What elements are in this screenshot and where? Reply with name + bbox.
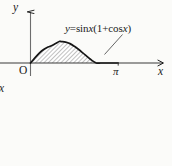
equation-open-paren: (1+ bbox=[93, 22, 108, 34]
y-axis-label: y bbox=[13, 2, 18, 14]
x-tick-label-pi: π bbox=[113, 66, 119, 77]
equation-cos-operator: cos bbox=[108, 22, 122, 34]
shaded-area-under-curve bbox=[31, 41, 119, 63]
x-axis-label: x bbox=[158, 66, 163, 78]
equation-sin-operator: sin bbox=[76, 22, 89, 34]
origin-label: O bbox=[19, 65, 27, 77]
figure-container: y x O π y=sinx(1+cosx) x bbox=[0, 0, 172, 166]
equation-leader-line bbox=[105, 35, 123, 55]
stray-margin-text: x bbox=[0, 83, 4, 95]
equation-close-paren: ) bbox=[128, 22, 132, 34]
equation-annotation: y=sinx(1+cosx) bbox=[65, 23, 131, 34]
